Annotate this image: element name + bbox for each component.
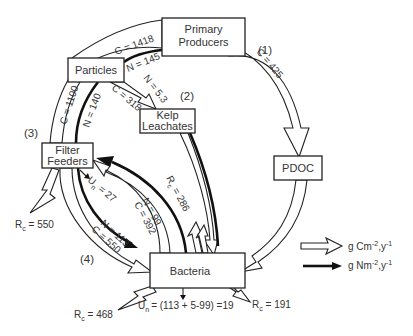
- carbon-arrow-pdoc-to-bacteria: [240, 180, 307, 272]
- node-pdoc: PDOC: [274, 156, 322, 180]
- node-primary-producers-line1: Primary: [185, 23, 223, 35]
- flow-label-bacteria-rc-upper: Rc = 286: [162, 174, 192, 215]
- legend-hollow-arrow-icon: [301, 238, 342, 254]
- svg-text:Rc = 286: Rc = 286: [162, 174, 192, 215]
- node-pdoc-label: PDOC: [282, 162, 314, 174]
- svg-text:Un= (113 + 5-99) =19: Un= (113 + 5-99) =19: [138, 300, 234, 313]
- flow-label-bacteria-un: Un= (113 + 5-99) =19: [138, 300, 234, 313]
- svg-text:Rc = 550: Rc = 550: [15, 219, 54, 232]
- svg-text:Rc = 191: Rc = 191: [252, 299, 291, 312]
- legend-carbon-text: g Cm-2,y-1: [348, 240, 392, 252]
- legend-solid-arrowhead-icon: [332, 262, 342, 270]
- node-bacteria-label: Bacteria: [170, 265, 211, 277]
- carbon-arrow-ff-rc: [30, 168, 59, 213]
- flow-label-ff-un: Un = 27: [84, 174, 118, 206]
- pathway-label-4: (4): [80, 253, 94, 265]
- nutrient-flow-diagram: Primary Producers Particles Kelp Leachat…: [0, 0, 413, 336]
- flow-label-particles-ff-n: N = 140: [81, 91, 104, 128]
- flow-label-bacteria-rc-left: Rc = 468: [74, 309, 113, 322]
- legend-nitrogen-text: g Nm-2,y-1: [348, 259, 392, 271]
- node-ff-line2: Feeders: [47, 155, 88, 167]
- legend: g Cm-2,y-1 g Nm-2,y-1: [301, 238, 392, 271]
- node-bacteria: Bacteria: [150, 253, 245, 288]
- node-primary-producers-line2: Producers: [178, 36, 229, 48]
- node-primary-producers: Primary Producers: [162, 18, 245, 56]
- node-kelp-line2: Leachates: [142, 120, 193, 132]
- legend-carbon: g Cm-2,y-1: [301, 238, 392, 254]
- flow-label-bacteria-rc-right: Rc = 191: [252, 299, 291, 312]
- pathway-label-3: (3): [24, 127, 38, 139]
- pathway-label-2: (2): [180, 90, 194, 102]
- node-particles-label: Particles: [75, 64, 118, 76]
- svg-text:Un = 27: Un = 27: [84, 174, 118, 206]
- nitrogen-line-ff-un: [80, 170, 86, 176]
- flow-label-ff-rc: Rc = 550: [15, 219, 54, 232]
- node-particles: Particles: [68, 58, 124, 82]
- node-filter-feeders: Filter Feeders: [42, 143, 93, 168]
- svg-text:Rc = 468: Rc = 468: [74, 309, 113, 322]
- legend-nitrogen: g Nm-2,y-1: [303, 259, 392, 271]
- node-kelp-leachates: Kelp Leachates: [140, 109, 195, 133]
